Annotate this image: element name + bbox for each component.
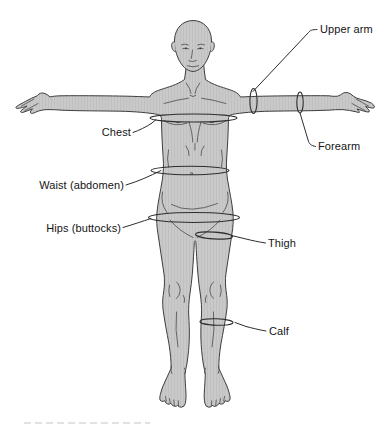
- left-ear: [172, 42, 176, 52]
- label-forearm: Forearm: [318, 140, 360, 152]
- human-figure: [16, 21, 375, 408]
- waist-leader-line: [126, 171, 161, 186]
- label-waist: Waist (abdomen): [39, 179, 124, 191]
- figure-body-measurement-sites: Upper arm Chest Forearm Waist (abdomen) …: [0, 0, 384, 425]
- label-hips: Hips (buttocks): [46, 222, 121, 234]
- head: [174, 21, 211, 72]
- right-pupil: [199, 48, 201, 50]
- label-chest: Chest: [102, 126, 131, 138]
- label-upper-arm: Upper arm: [320, 23, 373, 35]
- right-ear: [210, 42, 214, 52]
- left-pupil: [185, 48, 187, 50]
- upper-arm-leader-line: [253, 30, 317, 92]
- forearm-leader-line: [300, 113, 316, 147]
- chest-leader-line: [133, 120, 156, 133]
- calf-leader-line: [235, 323, 266, 332]
- label-calf: Calf: [269, 325, 290, 337]
- anatomy-diagram-svg: Upper arm Chest Forearm Waist (abdomen) …: [0, 0, 384, 425]
- hips-leader-line: [123, 219, 151, 228]
- thigh-leader-line: [232, 236, 266, 244]
- label-thigh: Thigh: [268, 237, 296, 249]
